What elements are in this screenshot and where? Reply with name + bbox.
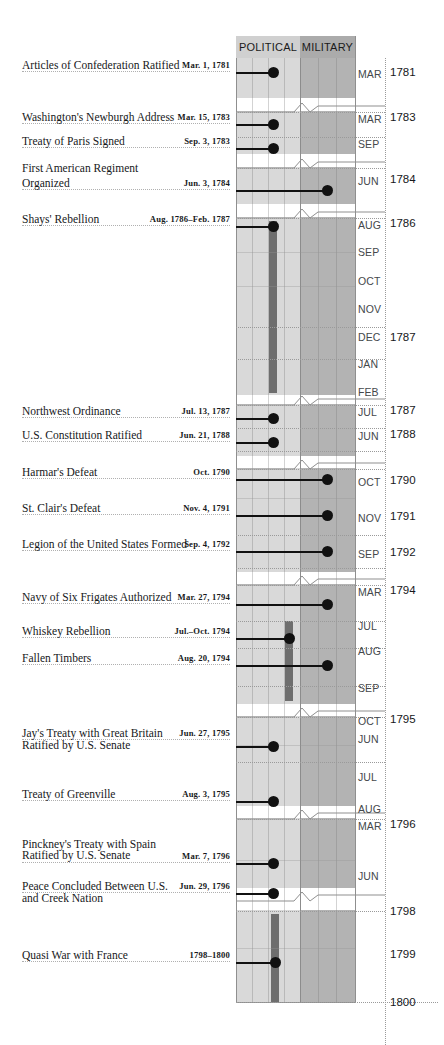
grid-vline <box>336 58 337 1003</box>
event-marker[interactable] <box>270 957 281 968</box>
month-rule <box>236 911 385 912</box>
event-title: Articles of Confederation Ratified <box>22 59 179 71</box>
event-marker[interactable] <box>322 474 333 485</box>
event-title-line2: Organized <box>22 177 70 189</box>
event-date: Jun. 3, 1784 <box>184 178 230 188</box>
event-marker[interactable] <box>322 599 333 610</box>
military-band-segment <box>300 404 355 456</box>
year-label: 1798 <box>390 905 438 917</box>
event-date: Jun. 21, 1788 <box>179 430 230 440</box>
event-marker[interactable] <box>268 796 279 807</box>
event-title: Shays' Rebellion <box>22 213 99 225</box>
event-date: Aug. 20, 1794 <box>178 653 230 663</box>
month-label: AUG <box>358 803 388 815</box>
year-label: 1790 <box>390 474 438 486</box>
event-title-line2: and Creek Nation <box>22 892 103 904</box>
month-rule <box>236 428 385 429</box>
month-rule <box>236 469 385 470</box>
column-header-political-label: POLITICAL <box>239 41 297 53</box>
leader-dots <box>22 862 230 863</box>
event-date: Mar. 15, 1783 <box>178 112 230 122</box>
event-title-line2: Ratified by U.S. Senate <box>22 739 130 751</box>
month-label: NOV <box>358 512 388 524</box>
event-date: Jul. 13, 1787 <box>182 406 230 416</box>
month-label: OCT <box>358 715 388 727</box>
leader-dots <box>22 189 230 190</box>
event-leader-line <box>236 604 328 606</box>
event-title: Treaty of Paris Signed <box>22 135 125 147</box>
year-label: 1788 <box>390 428 438 440</box>
month-label: OCT <box>358 476 388 488</box>
column-header-military-label: MILITARY <box>302 41 353 53</box>
grid-vline <box>252 58 253 1003</box>
month-label: JUN <box>358 733 388 745</box>
grid-vline <box>284 58 285 1003</box>
event-marker[interactable] <box>268 67 279 78</box>
event-marker[interactable] <box>268 119 279 130</box>
leader-dots <box>22 637 230 638</box>
event-marker[interactable] <box>268 858 279 869</box>
leader-dots <box>22 225 230 226</box>
event-date: Mar. 7, 1796 <box>182 851 230 861</box>
month-rule <box>236 568 385 569</box>
grid-hline <box>236 286 355 287</box>
leader-dots <box>22 478 230 479</box>
event-marker[interactable] <box>268 221 279 232</box>
leader-dots <box>22 514 230 515</box>
month-label: JUN <box>358 870 388 882</box>
event-date: Sep. 4, 1792 <box>184 539 230 549</box>
event-title: Fallen Timbers <box>22 652 91 664</box>
month-label: AUG <box>358 645 388 657</box>
event-leader-line <box>236 515 328 517</box>
event-marker[interactable] <box>268 143 279 154</box>
event-marker[interactable] <box>268 888 279 899</box>
month-label: FEB <box>358 386 388 398</box>
leader-dots <box>22 417 230 418</box>
month-label: JUN <box>358 175 388 187</box>
year-label: 1795 <box>390 713 438 725</box>
month-label: NOV <box>358 303 388 315</box>
month-label: SEP <box>358 548 388 560</box>
event-date: Aug. 1786–Feb. 1787 <box>150 214 230 224</box>
column-header-political: POLITICAL <box>236 36 300 58</box>
month-label: MAR <box>358 586 388 598</box>
year-label: 1796 <box>390 818 438 830</box>
event-title: Peace Concluded Between U.S. <box>22 880 168 892</box>
leader-dots <box>22 71 230 72</box>
month-label: SEP <box>358 682 388 694</box>
month-rule <box>236 451 385 452</box>
event-title: Navy of Six Frigates Authorized <box>22 591 171 603</box>
month-rule <box>236 327 385 328</box>
month-label: DEC <box>358 331 388 343</box>
leader-dots <box>22 603 230 604</box>
event-date: Jul.–Oct. 1794 <box>174 626 230 636</box>
column-header-military: MILITARY <box>300 36 355 58</box>
event-title: Washington's Newburgh Address <box>22 111 174 123</box>
leader-dots <box>22 147 230 148</box>
month-label: JUN <box>358 430 388 442</box>
event-marker[interactable] <box>322 510 333 521</box>
event-marker[interactable] <box>322 546 333 557</box>
event-title: First American Regiment <box>22 162 138 174</box>
event-marker[interactable] <box>322 660 333 671</box>
event-marker[interactable] <box>268 741 279 752</box>
military-band-segment <box>300 818 355 888</box>
event-marker[interactable] <box>268 437 279 448</box>
event-title: Treaty of Greenville <box>22 788 115 800</box>
block-right-edge <box>355 36 356 1003</box>
event-date: 1798–1800 <box>190 950 230 960</box>
event-title: Harmar's Defeat <box>22 466 97 478</box>
event-leader-line <box>236 190 328 192</box>
grid-hline <box>236 948 355 949</box>
month-rule <box>236 168 385 169</box>
month-label: AUG <box>358 219 388 231</box>
event-marker[interactable] <box>322 185 333 196</box>
leader-dots <box>22 664 230 665</box>
year-label: 1787 <box>390 331 438 343</box>
leader-dots <box>22 123 230 124</box>
event-marker[interactable] <box>268 413 279 424</box>
event-marker[interactable] <box>284 633 295 644</box>
month-label: JUL <box>358 771 388 783</box>
month-label: JUL <box>358 406 388 418</box>
military-band-segment <box>300 111 355 154</box>
